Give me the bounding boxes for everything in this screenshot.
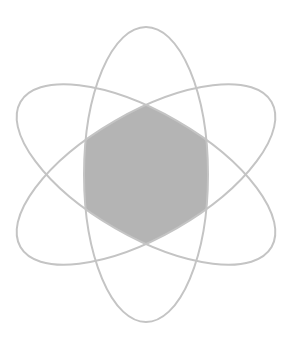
three-ellipse-diagram xyxy=(0,0,292,346)
diagram-canvas xyxy=(0,0,292,346)
